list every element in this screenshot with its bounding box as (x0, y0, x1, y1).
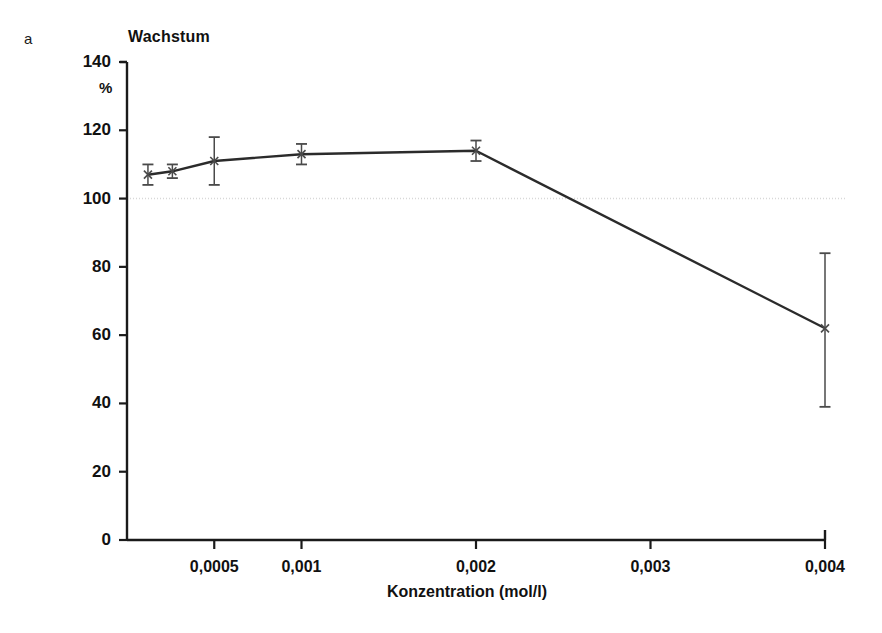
x-tick-label-0,001: 0,001 (247, 558, 357, 576)
data-line-wachstum (148, 151, 825, 328)
y-tick-label-140: 140 (47, 52, 111, 72)
x-tick-label-0,002: 0,002 (421, 558, 531, 576)
y-tick-label-20: 20 (47, 462, 111, 482)
y-tick-label-120: 120 (47, 120, 111, 140)
y-tick-label-80: 80 (47, 257, 111, 277)
y-tick-label-0: 0 (47, 530, 111, 550)
chart-figure: a Wachstum % 020406080100120140 0,00050,… (0, 0, 882, 633)
y-tick-label-40: 40 (47, 393, 111, 413)
x-axis-title: Konzentration (mol/l) (0, 583, 882, 601)
y-tick-label-60: 60 (47, 325, 111, 345)
y-tick-label-100: 100 (47, 189, 111, 209)
plot-canvas (0, 0, 882, 633)
x-axis-title-text: Konzentration (mol/l) (387, 583, 547, 601)
x-tick-label-0,003: 0,003 (596, 558, 706, 576)
data-point-5 (820, 253, 831, 407)
x-tick-label-0,004: 0,004 (770, 558, 880, 576)
